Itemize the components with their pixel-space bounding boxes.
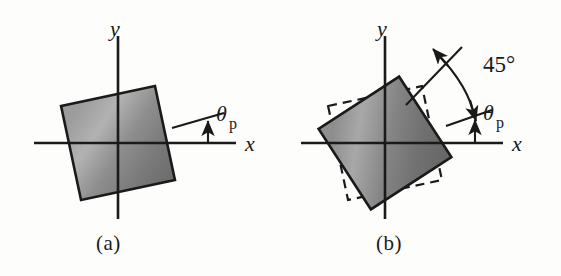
panel-b-theta-subscript: p	[496, 114, 504, 132]
stress-element-diagram: y x θ p	[0, 0, 561, 276]
figure-container: y x θ p	[0, 0, 561, 276]
panel-b: y x θ p 45°	[301, 16, 522, 219]
panel-b-x-axis-label: x	[511, 131, 522, 156]
panel-b-caption: (b)	[376, 231, 402, 256]
arc-curve	[436, 52, 474, 117]
panel-a-y-axis-label: y	[108, 16, 120, 41]
panel-a-theta-subscript: p	[229, 115, 237, 133]
arc-label-45-degrees: 45°	[483, 52, 515, 77]
panel-b-theta-symbol: θ	[483, 100, 494, 125]
panel-a: y x θ p	[34, 16, 255, 219]
panel-a-x-axis-label: x	[244, 131, 255, 156]
panel-a-caption: (a)	[96, 231, 121, 256]
panel-b-45-degree-arc	[433, 49, 476, 121]
panel-a-theta-symbol: θ	[216, 101, 227, 126]
arc-arrowhead-upper	[433, 49, 448, 66]
panel-b-y-axis-label: y	[375, 16, 387, 41]
reference-axis-leader-line	[406, 47, 462, 105]
